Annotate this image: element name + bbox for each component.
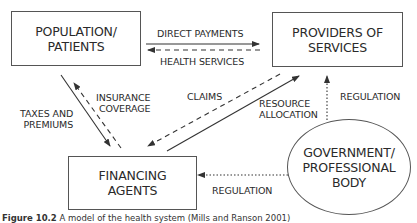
node-label: POPULATION/ PATIENTS [35,24,116,54]
node-label: PROVIDERS OF SERVICES [292,25,383,55]
label-claims: CLAIMS [187,91,222,102]
label-regulation-financing: REGULATION [212,185,272,196]
label-resource-allocation: RESOURCE ALLOCATION [259,98,318,120]
caption-text: A model of the health system (Mills and … [59,213,290,223]
label-direct-payments: DIRECT PAYMENTS [157,28,244,39]
figure-caption: Figure 10.2 A model of the health system… [2,213,290,223]
label-taxes-premiums: TAXES AND PREMIUMS [20,108,73,130]
caption-figure-number: Figure 10.2 [2,213,57,223]
node-population-patients: POPULATION/ PATIENTS [11,11,141,66]
node-providers-of-services: PROVIDERS OF SERVICES [272,12,403,67]
label-health-services: HEALTH SERVICES [160,56,244,67]
node-financing-agents: FINANCING AGENTS [68,156,197,210]
label-regulation-providers: REGULATION [340,91,400,102]
node-government-professional-body: GOVERNMENT/ PROFESSIONAL BODY [287,119,411,215]
node-label: GOVERNMENT/ PROFESSIONAL BODY [302,145,395,190]
label-insurance-coverage: INSURANCE COVERAGE [96,92,150,114]
node-label: FINANCING AGENTS [99,168,167,198]
